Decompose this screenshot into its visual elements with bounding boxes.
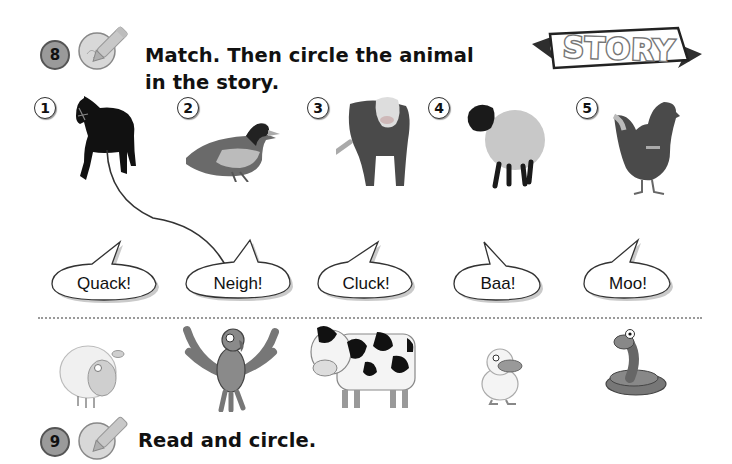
cartoon-parrot[interactable] (183, 322, 279, 412)
speech-bubble-baa[interactable]: Baa! (450, 236, 546, 306)
dotted-divider (38, 317, 702, 319)
speech-bubble-quack[interactable]: Quack! (48, 236, 160, 306)
exercise-number: 9 (50, 433, 60, 451)
cartoon-sheep[interactable] (58, 340, 130, 408)
cartoon-duckling[interactable] (478, 346, 528, 406)
bubble-text: Quack! (48, 274, 160, 294)
bubble-text: Baa! (450, 274, 546, 294)
pencil-write-icon (75, 414, 135, 458)
bubble-text: Neigh! (182, 274, 294, 294)
speech-bubble-cluck[interactable]: Cluck! (314, 236, 418, 306)
exercise-9-instruction: Read and circle. (138, 427, 316, 454)
exercise-number-badge: 9 (40, 427, 70, 457)
speech-bubble-moo[interactable]: Moo! (580, 236, 676, 306)
cartoon-snake[interactable] (600, 328, 668, 398)
bubble-text: Cluck! (314, 274, 418, 294)
cartoon-cow[interactable] (307, 322, 421, 412)
bubble-text: Moo! (580, 274, 676, 294)
speech-bubble-neigh[interactable]: Neigh! (182, 236, 294, 306)
